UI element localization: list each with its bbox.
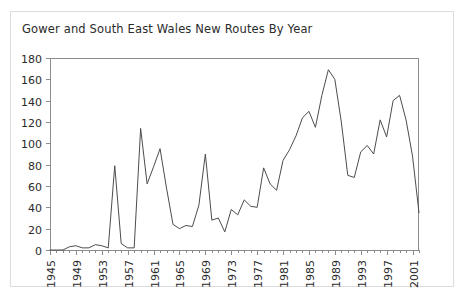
chart-page: Gower and South East Wales New Routes By… <box>0 0 466 301</box>
plot-area-border <box>51 59 419 251</box>
x-tick-label: 1977 <box>252 260 265 288</box>
x-tick-label: 1997 <box>382 260 395 288</box>
x-axis-labels: 1945194919531957196119651969197319771981… <box>45 260 421 288</box>
chart-canvas: 020406080100120140160180 194519491953195… <box>0 0 466 301</box>
x-tick-label: 1949 <box>71 260 84 288</box>
x-tick-label: 1957 <box>123 260 136 288</box>
y-tick-label: 80 <box>28 160 42 173</box>
y-tick-label: 60 <box>28 181 42 194</box>
y-tick-label: 40 <box>28 202 42 215</box>
y-tick-label: 20 <box>28 224 42 237</box>
x-tick-label: 1961 <box>149 260 162 288</box>
x-tick-label: 1953 <box>97 260 110 288</box>
x-tick-label: 1993 <box>356 260 369 288</box>
y-axis-labels: 020406080100120140160180 <box>21 53 42 258</box>
x-tick-label: 1973 <box>226 260 239 288</box>
x-tick-label: 1989 <box>330 260 343 288</box>
y-tick-label: 180 <box>21 53 42 66</box>
x-tick-label: 1981 <box>278 260 291 288</box>
y-axis-ticks <box>46 59 50 251</box>
x-tick-label: 1969 <box>200 260 213 288</box>
y-tick-label: 120 <box>21 117 42 130</box>
x-tick-label: 1945 <box>45 260 58 288</box>
line-chart: 020406080100120140160180 194519491953195… <box>0 0 466 301</box>
series-line-new-routes <box>50 70 419 250</box>
y-tick-label: 140 <box>21 96 42 109</box>
x-tick-label: 1965 <box>174 260 187 288</box>
y-tick-label: 100 <box>21 138 42 151</box>
y-tick-label: 0 <box>35 245 42 258</box>
x-tick-label: 1985 <box>304 260 317 288</box>
x-tick-label: 2001 <box>408 260 421 288</box>
y-tick-label: 160 <box>21 74 42 87</box>
